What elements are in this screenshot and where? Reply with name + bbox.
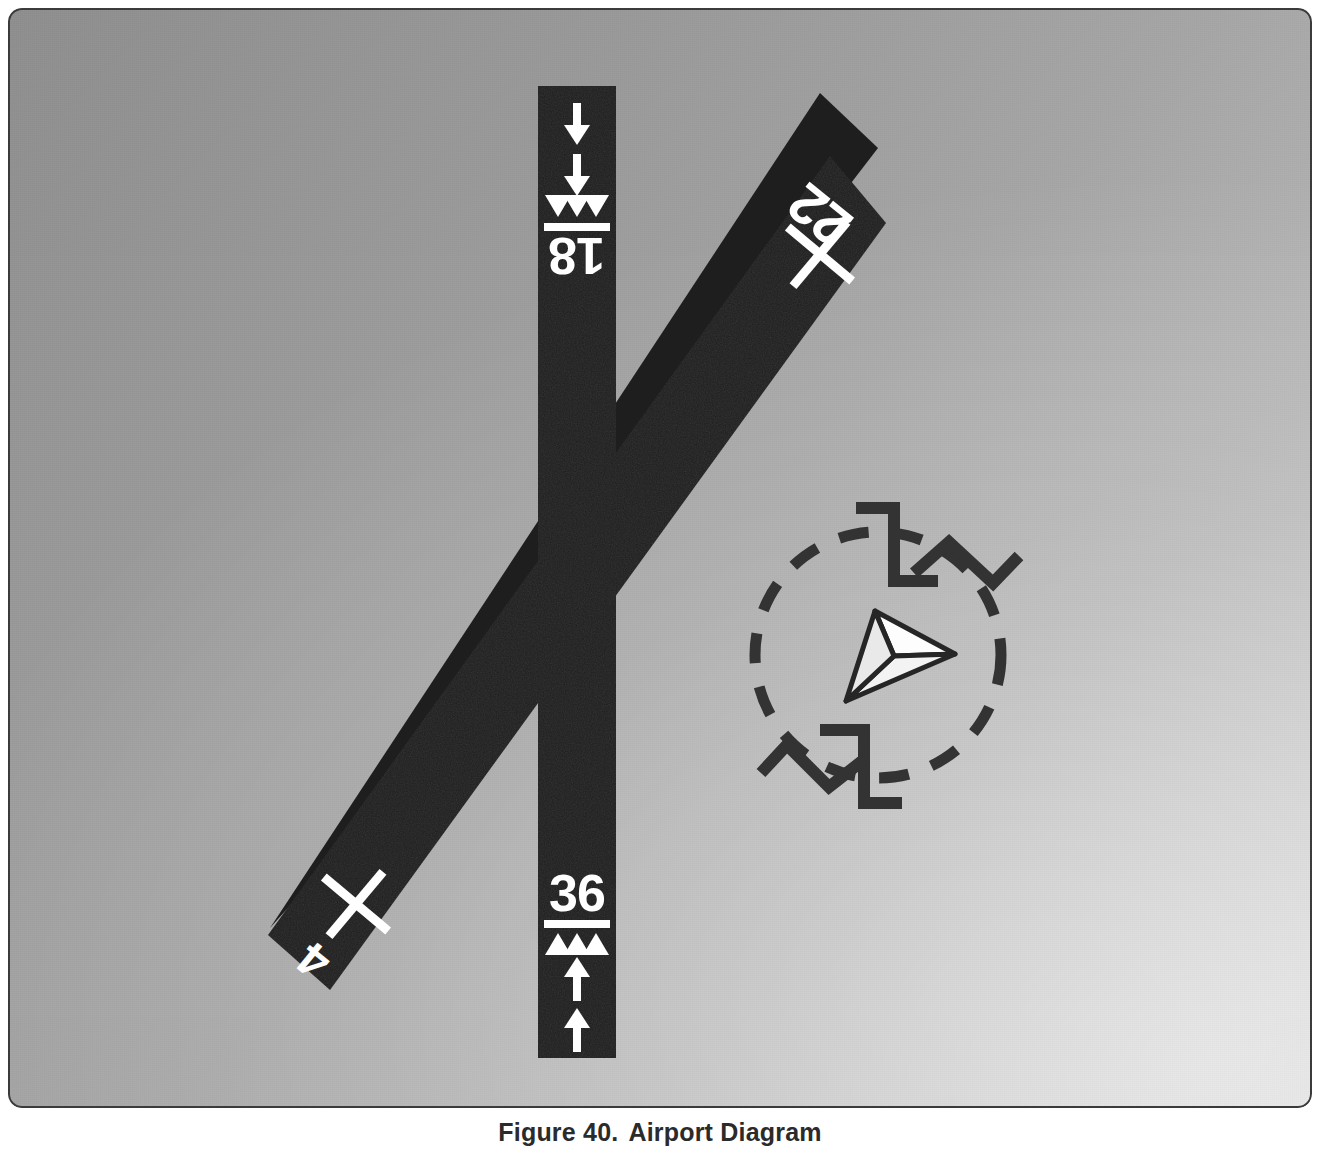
- threshold-bar-36: [544, 920, 610, 928]
- diagram-canvas: 22 4: [8, 8, 1312, 1108]
- figure-caption: Figure 40.Airport Diagram: [0, 1118, 1320, 1147]
- runway-18-36[interactable]: 18 36: [538, 86, 616, 1058]
- segmented-circle[interactable]: [755, 508, 1019, 803]
- strip-indicator-southwest: [761, 745, 866, 787]
- figure-title: Airport Diagram: [628, 1118, 821, 1146]
- figure-page: 22 4: [0, 0, 1320, 1153]
- runway-designator-18: 18: [549, 227, 605, 285]
- figure-number: Figure 40.: [498, 1118, 618, 1146]
- wind-tetrahedron: [846, 611, 955, 701]
- runway-designator-36: 36: [549, 864, 605, 922]
- airport-diagram-photo: 22 4: [8, 8, 1312, 1108]
